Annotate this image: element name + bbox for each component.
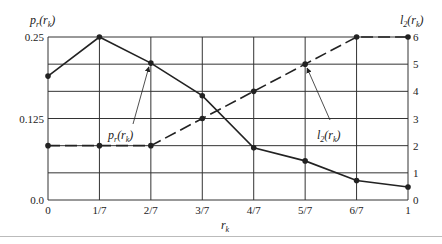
x-tick-label: 5/7 bbox=[298, 204, 313, 216]
series-lines bbox=[45, 34, 411, 190]
x-tick-label: 3/7 bbox=[195, 204, 210, 216]
right-tick-label: 2 bbox=[413, 140, 419, 152]
series-line bbox=[48, 37, 408, 187]
data-point bbox=[302, 158, 308, 164]
x-tick-label: 0 bbox=[45, 204, 51, 216]
right-tick-label: 0 bbox=[413, 194, 419, 206]
data-point bbox=[97, 143, 103, 149]
left-tick-label: 0.25 bbox=[25, 31, 45, 43]
axis-ticks: 01/72/73/74/75/76/710.00.1250.250123456 bbox=[19, 31, 419, 216]
x-tick-label: 2/7 bbox=[144, 204, 159, 216]
data-point bbox=[251, 145, 257, 151]
data-point bbox=[148, 143, 154, 149]
annotation-l-label: l2(rk) bbox=[317, 128, 341, 144]
right-tick-label: 5 bbox=[413, 58, 419, 70]
x-tick-label: 4/7 bbox=[247, 204, 262, 216]
data-point bbox=[354, 178, 360, 184]
left-tick-label: 0.0 bbox=[30, 194, 44, 206]
right-tick-label: 3 bbox=[413, 113, 419, 125]
right-tick-label: 6 bbox=[413, 31, 419, 43]
annotation-p-label: pr(rk) bbox=[107, 128, 133, 144]
left-tick-label: 0.125 bbox=[19, 113, 44, 125]
divider bbox=[0, 236, 442, 237]
data-point bbox=[148, 60, 154, 66]
right-tick-label: 4 bbox=[413, 85, 419, 97]
data-point bbox=[45, 143, 51, 149]
x-tick-label: 6/7 bbox=[350, 204, 365, 216]
data-point bbox=[97, 34, 103, 40]
data-point bbox=[405, 34, 411, 40]
chart: 01/72/73/74/75/76/710.00.1250.250123456 … bbox=[0, 0, 442, 244]
left-axis-title: pr(rk) bbox=[29, 13, 55, 29]
annotation-arrow bbox=[307, 68, 330, 120]
x-tick-label: 1 bbox=[405, 204, 411, 216]
right-axis-title: l2(rk) bbox=[400, 13, 424, 29]
data-point bbox=[199, 93, 205, 99]
annotations bbox=[133, 67, 330, 124]
data-point bbox=[302, 61, 308, 67]
right-tick-label: 1 bbox=[413, 167, 419, 179]
data-point bbox=[405, 184, 411, 190]
data-point bbox=[354, 34, 360, 40]
x-tick-label: 1/7 bbox=[92, 204, 107, 216]
data-point bbox=[45, 73, 51, 79]
data-point bbox=[251, 89, 257, 95]
grid-lines bbox=[48, 37, 408, 200]
annotation-arrow bbox=[133, 67, 149, 124]
x-axis-title: rk bbox=[221, 218, 230, 234]
data-point bbox=[199, 116, 205, 122]
